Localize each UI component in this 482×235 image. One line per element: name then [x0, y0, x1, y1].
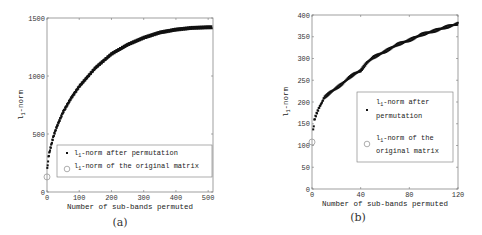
data-point — [47, 164, 49, 166]
data-point — [46, 167, 48, 169]
y-tick-label: 250 — [297, 77, 310, 85]
x-axis-label: Number of sub-bands permuted — [322, 200, 448, 208]
panel-caption: (a) — [112, 216, 127, 229]
data-point — [314, 118, 316, 120]
y-tick-label: 0 — [306, 186, 310, 194]
data-point — [55, 129, 57, 131]
y-tick-label: 1000 — [28, 73, 45, 81]
data-point — [56, 127, 58, 129]
legend-dot-icon — [366, 109, 368, 111]
data-point — [322, 99, 324, 101]
data-point — [52, 139, 54, 141]
x-tick-label: 300 — [137, 194, 150, 202]
data-point — [318, 107, 320, 109]
data-point — [49, 149, 51, 151]
x-tick-label: 200 — [105, 194, 118, 202]
data-point — [53, 135, 55, 137]
y-axis-label: l1-norm — [282, 86, 292, 117]
data-point — [48, 155, 50, 157]
data-point — [77, 88, 79, 90]
y-tick-label: 100 — [297, 142, 310, 150]
data-point — [313, 125, 315, 127]
data-point — [73, 93, 75, 95]
y-tick-label: 400 — [297, 12, 310, 20]
legend-dot-icon — [66, 152, 68, 154]
data-point — [65, 108, 67, 110]
data-point — [211, 27, 213, 29]
x-tick-label: 80 — [405, 191, 413, 199]
x-tick-label: 120 — [452, 191, 465, 199]
data-point — [61, 115, 63, 117]
data-point — [456, 24, 458, 26]
panel-caption: (b) — [350, 211, 366, 224]
x-tick-label: 40 — [356, 191, 364, 199]
y-tick-label: 1500 — [28, 15, 45, 23]
x-axis-label: Number of sub-bands permuted — [67, 203, 193, 211]
y-tick-label: 150 — [297, 120, 310, 128]
data-point — [47, 160, 49, 162]
legend-entry-cont: permutation — [376, 112, 422, 120]
data-point — [315, 115, 317, 117]
x-tick-label: 400 — [170, 194, 183, 202]
data-point — [63, 111, 65, 113]
legend: l1-norm afterpermutationl1-norm of theor… — [357, 92, 453, 162]
y-tick-label: 300 — [297, 55, 310, 63]
legend-entry-cont: original matrix — [376, 147, 439, 155]
x-tick-label: 100 — [73, 194, 86, 202]
data-point — [312, 128, 314, 130]
y-tick-label: 50 — [302, 164, 310, 172]
data-point — [54, 133, 56, 135]
y-tick-label: 200 — [297, 99, 310, 107]
data-point — [75, 91, 77, 93]
data-point — [88, 75, 90, 77]
data-point — [51, 142, 53, 144]
x-tick-label: 0 — [45, 194, 49, 202]
data-point — [50, 147, 52, 149]
data-point — [210, 25, 212, 27]
chart-b: 04080120050100150200250300350400Number o… — [282, 12, 464, 225]
data-point — [59, 120, 61, 122]
legend: l1-norm after permutationl1-norm of the … — [57, 145, 212, 177]
data-point — [317, 110, 319, 112]
y-tick-label: 350 — [297, 33, 310, 41]
x-tick-label: 0 — [310, 191, 314, 199]
x-tick-label: 500 — [202, 194, 215, 202]
data-point — [66, 104, 68, 106]
data-point — [457, 22, 459, 24]
chart-a: 0100200300400500050010001500Number of su… — [17, 15, 214, 230]
y-tick-label: 0 — [41, 189, 45, 197]
y-tick-label: 500 — [32, 131, 45, 139]
data-point — [57, 124, 59, 126]
figure: 0100200300400500050010001500Number of su… — [0, 0, 482, 235]
data-point — [316, 112, 318, 114]
y-axis-label: l1-norm — [17, 89, 27, 120]
